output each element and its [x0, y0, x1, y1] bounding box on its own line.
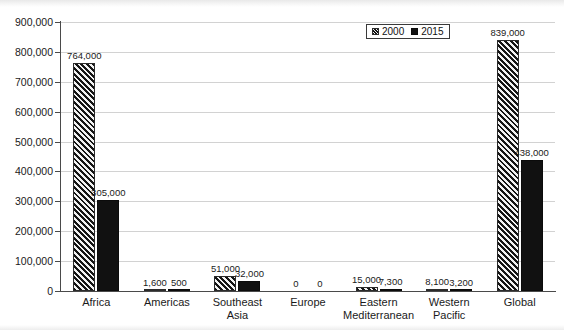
bar-2000 — [497, 40, 519, 291]
legend-item-2015: 2015 — [411, 27, 443, 37]
bar-group: 764,000305,000 — [73, 22, 119, 291]
y-axis-tick-label: 900,000 — [1, 17, 53, 27]
bar-chart: 900,000800,000700,000600,000500,000400,0… — [0, 0, 564, 330]
bar-group: 15,0007,300 — [356, 22, 402, 291]
bar-value-label: 32,000 — [223, 269, 275, 279]
y-axis-tick-mark — [55, 52, 60, 53]
y-axis-tick-mark — [55, 261, 60, 262]
legend-swatch-2015-icon — [411, 28, 418, 35]
y-axis-tick-mark — [55, 171, 60, 172]
bar-2015 — [450, 289, 472, 291]
plot-area: 764,000305,0001,60050051,00032,0000015,0… — [61, 22, 555, 291]
bar-value-label: 3,200 — [435, 278, 487, 288]
bar-group: 51,00032,000 — [214, 22, 260, 291]
legend-label-2000: 2000 — [382, 27, 404, 37]
bar-2015 — [97, 200, 119, 291]
bar-value-label: 438,000 — [506, 148, 558, 158]
y-axis-tick-mark — [55, 82, 60, 83]
bar-value-label: 764,000 — [58, 51, 110, 61]
y-axis-tick-label: 700,000 — [1, 77, 53, 87]
y-axis-tick-mark — [55, 231, 60, 232]
y-axis-tick-mark — [55, 112, 60, 113]
bar-group: 1,600500 — [144, 22, 190, 291]
bar-value-label: 305,000 — [82, 188, 134, 198]
y-axis-tick-label: 600,000 — [1, 107, 53, 117]
y-axis-tick-mark — [55, 142, 60, 143]
y-axis-tick-mark — [55, 22, 60, 23]
bar-2015 — [380, 289, 402, 291]
bar-2015 — [168, 289, 190, 291]
bar-group: 00 — [285, 22, 331, 291]
legend-item-2000: 2000 — [372, 27, 404, 37]
bar-2000 — [426, 289, 448, 291]
category-label-line: Global — [470, 296, 564, 309]
y-axis-tick-mark — [55, 291, 60, 292]
y-axis-tick-label: 100,000 — [1, 256, 53, 266]
bar-value-label: 500 — [153, 278, 205, 288]
y-axis-tick-label: 300,000 — [1, 196, 53, 206]
bar-group: 8,1003,200 — [426, 22, 472, 291]
y-axis-tick-label: 400,000 — [1, 166, 53, 176]
bar-2000 — [73, 63, 95, 291]
bar-2015 — [521, 160, 543, 291]
bar-value-label: 0 — [294, 279, 346, 289]
bar-2000 — [356, 287, 378, 291]
x-axis-line — [60, 291, 556, 292]
legend-label-2015: 2015 — [421, 27, 443, 37]
category-label: Global — [470, 296, 564, 309]
bar-group: 839,000438,000 — [497, 22, 543, 291]
y-axis-tick-label: 0 — [1, 286, 53, 296]
y-axis-labels: 900,000800,000700,000600,000500,000400,0… — [0, 0, 53, 330]
bar-value-label: 839,000 — [482, 28, 534, 38]
y-axis-tick-label: 500,000 — [1, 137, 53, 147]
category-label-line: Asia — [187, 309, 287, 322]
y-axis-tick-label: 800,000 — [1, 47, 53, 57]
y-axis-tick-mark — [55, 201, 60, 202]
bar-2015 — [238, 281, 260, 291]
bar-value-label: 7,300 — [365, 277, 417, 287]
chart-legend: 2000 2015 — [366, 24, 450, 39]
category-label-line: Pacific — [399, 309, 499, 322]
y-axis-tick-label: 200,000 — [1, 226, 53, 236]
legend-swatch-2000-icon — [372, 28, 379, 35]
bar-2000 — [144, 289, 166, 291]
